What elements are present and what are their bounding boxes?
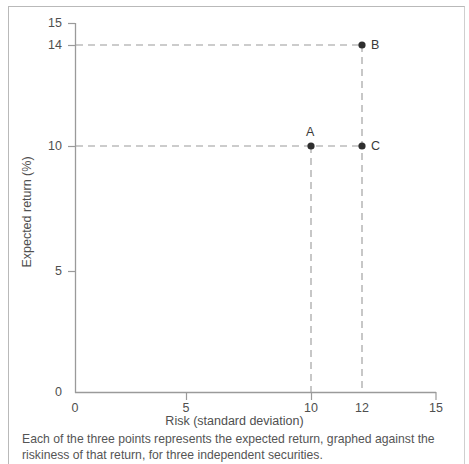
scatter-plot: 15 14 10 5 0 0 5 10 12 15 A B C Expected… (0, 0, 469, 410)
y-tick-label-0: 0 (32, 385, 62, 399)
x-tick-label-15: 15 (419, 401, 453, 415)
y-tick-label-5: 5 (32, 264, 62, 278)
guide-lines-group (76, 45, 362, 392)
data-point-b[interactable] (358, 41, 365, 48)
data-point-a[interactable] (307, 142, 314, 149)
y-axis-title: Expected return (%) (20, 112, 34, 312)
y-tick-label-15: 15 (32, 16, 62, 30)
x-tick-label-10: 10 (294, 401, 328, 415)
y-tick-label-14: 14 (32, 38, 62, 52)
x-axis-title: Risk (standard deviation) (0, 414, 469, 428)
plot-canvas (0, 0, 469, 410)
x-tick-label-0: 0 (58, 401, 92, 415)
figure-caption: Each of the three points represents the … (22, 432, 452, 463)
data-points-group (307, 41, 365, 149)
y-ticks-group (68, 24, 75, 272)
data-point-c[interactable] (358, 142, 365, 149)
data-point-label-c: C (371, 139, 380, 153)
data-point-label-a: A (306, 125, 314, 139)
x-tick-label-12: 12 (345, 401, 379, 415)
x-tick-label-5: 5 (169, 401, 203, 415)
figure-container: 15 14 10 5 0 0 5 10 12 15 A B C Expected… (0, 0, 469, 464)
y-tick-label-10: 10 (32, 139, 62, 153)
x-ticks-group (187, 392, 437, 400)
axes-group (75, 23, 436, 393)
data-point-label-b: B (371, 38, 379, 52)
